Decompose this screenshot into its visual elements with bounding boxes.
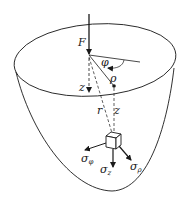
bowl-outline — [16, 68, 174, 191]
angle-phi-label: φ — [101, 56, 109, 69]
boussinesq-diagram: F φ ρ z r z σφ σz σρ — [0, 0, 186, 198]
sigma-rho-label: σρ — [130, 160, 143, 174]
sigma-rho-arrow — [119, 146, 131, 160]
surface-radius-line — [89, 55, 140, 62]
z-depth-label: z — [113, 104, 120, 117]
rho-label: ρ — [109, 72, 117, 85]
r-label: r — [97, 104, 103, 117]
force-label: F — [77, 36, 86, 49]
phi-arc — [108, 60, 124, 68]
sigma-phi-label: σφ — [81, 152, 94, 166]
diagram-canvas: F φ ρ z r z σφ σz σρ — [0, 0, 186, 198]
z-axis-label: z — [78, 81, 85, 94]
sigma-phi-arrow — [85, 143, 106, 150]
surface-ellipse — [12, 18, 179, 101]
sigma-z-label: σz — [100, 163, 112, 177]
